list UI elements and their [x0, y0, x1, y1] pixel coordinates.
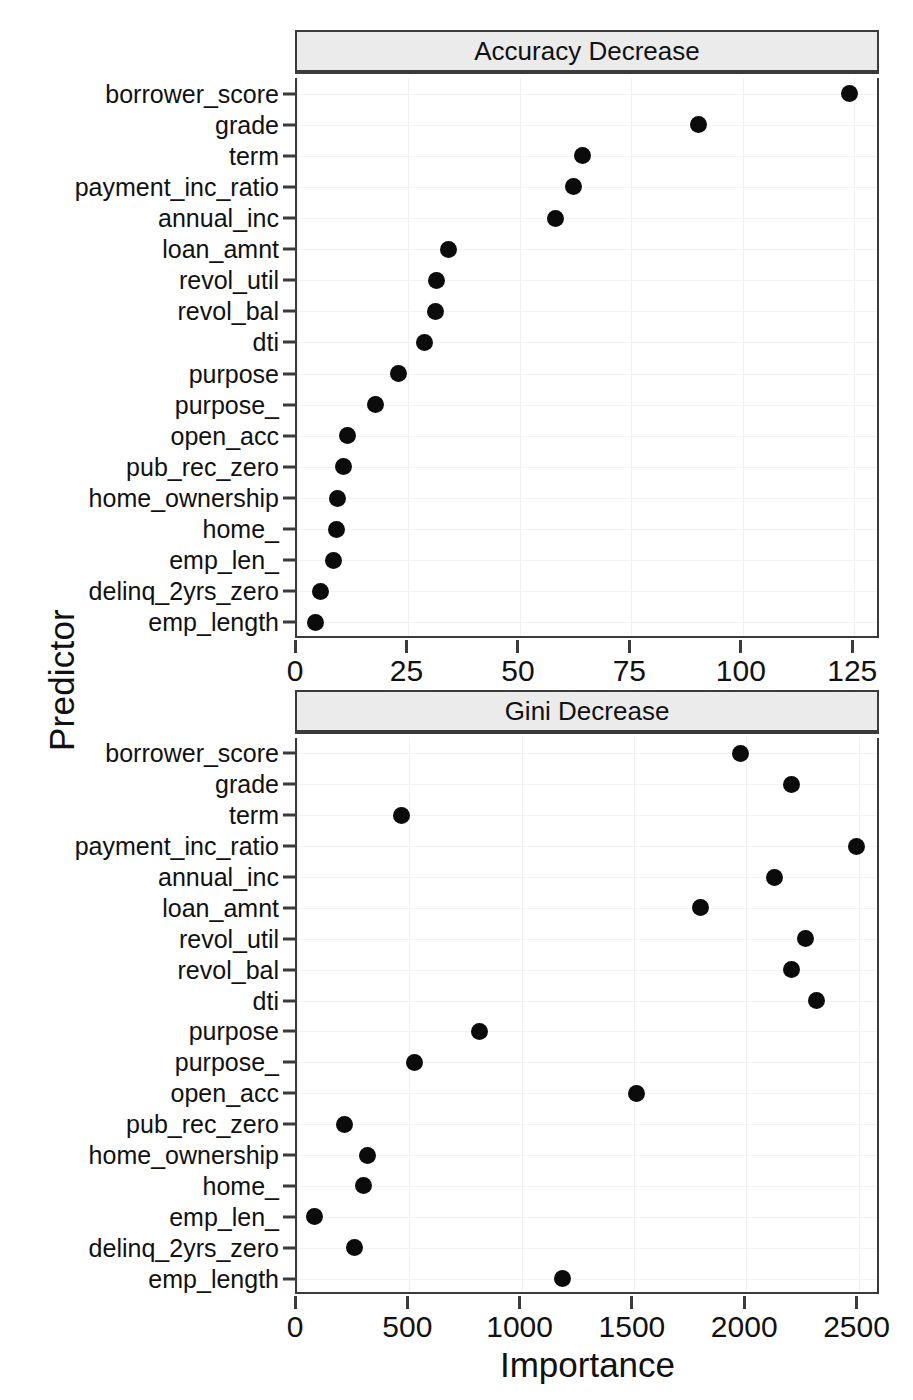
grid-line-horizontal	[297, 1155, 877, 1156]
data-point	[306, 1208, 323, 1225]
x-tick-label: 0	[287, 1310, 304, 1344]
data-point	[732, 745, 749, 762]
figure-root: Predictor Importance Accuracy Decreasebo…	[0, 0, 913, 1400]
grid-line-horizontal	[297, 753, 877, 754]
y-tick-label: borrower_score	[105, 739, 279, 768]
y-tick-mark	[283, 999, 295, 1002]
grid-line-horizontal	[297, 1062, 877, 1063]
y-tick-label: home_ownership	[89, 1141, 279, 1170]
y-tick-mark	[283, 1215, 295, 1218]
data-point	[848, 838, 865, 855]
data-point	[797, 930, 814, 947]
y-tick-mark	[283, 876, 295, 879]
y-tick-mark	[283, 1246, 295, 1249]
grid-line-horizontal	[297, 1093, 877, 1094]
grid-line-horizontal	[297, 1186, 877, 1187]
grid-line-vertical	[746, 738, 747, 1292]
data-point	[783, 776, 800, 793]
grid-line-vertical	[409, 738, 410, 1292]
y-tick-mark	[283, 937, 295, 940]
y-tick-mark	[283, 1154, 295, 1157]
y-tick-label: term	[229, 801, 279, 830]
grid-line-horizontal	[297, 1124, 877, 1125]
y-tick-label: delinq_2yrs_zero	[89, 1233, 279, 1262]
y-tick-mark	[283, 906, 295, 909]
y-tick-label: open_acc	[171, 1079, 279, 1108]
y-tick-label: emp_len_	[169, 1202, 279, 1231]
grid-line-horizontal	[297, 1001, 877, 1002]
data-point	[336, 1116, 353, 1133]
y-tick-label: purpose_	[175, 1048, 279, 1077]
y-tick-mark	[283, 1061, 295, 1064]
y-tick-label: loan_amnt	[162, 893, 279, 922]
x-tick-mark	[855, 1296, 858, 1309]
data-point	[471, 1023, 488, 1040]
y-tick-mark	[283, 1277, 295, 1280]
data-point	[346, 1239, 363, 1256]
data-point	[355, 1177, 372, 1194]
y-tick-mark	[283, 1123, 295, 1126]
grid-line-vertical	[297, 738, 298, 1292]
data-point	[628, 1085, 645, 1102]
data-point	[359, 1147, 376, 1164]
y-tick-mark	[283, 814, 295, 817]
x-tick-label: 500	[382, 1310, 432, 1344]
grid-line-horizontal	[297, 908, 877, 909]
x-tick-label: 2000	[711, 1310, 778, 1344]
grid-line-vertical	[859, 738, 860, 1292]
x-tick-mark	[743, 1296, 746, 1309]
x-tick-label: 1000	[486, 1310, 553, 1344]
y-tick-mark	[283, 752, 295, 755]
data-point	[692, 899, 709, 916]
grid-line-horizontal	[297, 877, 877, 878]
grid-line-horizontal	[297, 1248, 877, 1249]
data-point	[808, 992, 825, 1009]
grid-line-horizontal	[297, 815, 877, 816]
x-tick-mark	[406, 1296, 409, 1309]
x-tick-mark	[294, 1296, 297, 1309]
data-point	[406, 1054, 423, 1071]
grid-line-horizontal	[297, 939, 877, 940]
y-tick-mark	[283, 968, 295, 971]
y-tick-mark	[283, 1030, 295, 1033]
y-tick-label: purpose	[189, 1017, 279, 1046]
y-tick-label: emp_length	[148, 1264, 279, 1293]
panel-gini-decrease: Gini Decreaseborrower_scoregradetermpaym…	[0, 0, 913, 1400]
grid-line-horizontal	[297, 1279, 877, 1280]
plot-area	[295, 738, 879, 1294]
x-tick-label: 1500	[599, 1310, 666, 1344]
grid-line-horizontal	[297, 1217, 877, 1218]
y-tick-label: home_	[203, 1171, 279, 1200]
y-tick-label: grade	[215, 770, 279, 799]
y-tick-label: pub_rec_zero	[126, 1110, 279, 1139]
y-tick-label: payment_inc_ratio	[75, 832, 279, 861]
data-point	[393, 807, 410, 824]
grid-line-vertical	[522, 738, 523, 1292]
x-tick-label: 2500	[823, 1310, 890, 1344]
grid-line-horizontal	[297, 1031, 877, 1032]
data-point	[766, 869, 783, 886]
y-tick-mark	[283, 1092, 295, 1095]
data-point	[783, 961, 800, 978]
y-tick-mark	[283, 783, 295, 786]
y-tick-label: revol_bal	[178, 955, 279, 984]
y-tick-label: dti	[253, 986, 279, 1015]
x-tick-mark	[518, 1296, 521, 1309]
y-tick-label: revol_util	[179, 924, 279, 953]
grid-line-horizontal	[297, 846, 877, 847]
x-tick-mark	[630, 1296, 633, 1309]
y-tick-mark	[283, 1184, 295, 1187]
panel-strip-header: Gini Decrease	[295, 690, 879, 734]
y-tick-mark	[283, 845, 295, 848]
grid-line-vertical	[634, 738, 635, 1292]
y-tick-label: annual_inc	[158, 863, 279, 892]
panel-strip-label: Gini Decrease	[505, 696, 670, 727]
data-point	[554, 1270, 571, 1287]
